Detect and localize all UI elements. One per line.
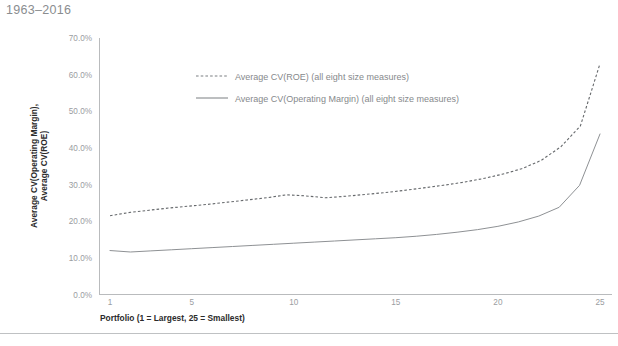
x-axis-title: Portfolio (1 = Largest, 25 = Smallest) [100, 313, 245, 323]
x-tick-label: 5 [189, 298, 194, 307]
y-axis-title-line2: Average CV(ROE) [39, 131, 49, 202]
y-axis-title-line1: Average CV(Operating Margin), [29, 104, 39, 228]
x-tick-label: 25 [595, 298, 605, 307]
series-line-average-cv-roe [110, 64, 600, 216]
chart-figure: 1963–2016 70.0%60.0%50.0%40.0%30.0%20.0%… [0, 0, 618, 346]
line-chart-plot: 70.0%60.0%50.0%40.0%30.0%20.0%10.0%0.0% … [0, 0, 618, 346]
y-tick-label: 50.0% [69, 107, 92, 116]
x-tick-label: 1 [108, 298, 113, 307]
x-tick-label: 10 [289, 298, 299, 307]
x-axis-tick-labels: 1510152025 [108, 298, 605, 307]
chart-legend: Average CV(ROE) (all eight size measures… [196, 72, 459, 104]
y-tick-label: 10.0% [69, 254, 92, 263]
y-tick-label: 40.0% [69, 144, 92, 153]
y-tick-label: 60.0% [69, 71, 92, 80]
legend-label-average-cv-operating-margin: Average CV(Operating Margin) (all eight … [235, 94, 459, 104]
x-tick-label: 15 [391, 298, 401, 307]
footer-divider [0, 333, 618, 334]
series-line-average-cv-operating-margin [110, 134, 600, 252]
y-tick-label: 20.0% [69, 217, 92, 226]
y-axis-tick-labels: 70.0%60.0%50.0%40.0%30.0%20.0%10.0%0.0% [69, 34, 92, 300]
y-axis-title: Average CV(Operating Margin), Average CV… [29, 104, 49, 228]
y-tick-label: 30.0% [69, 181, 92, 190]
y-tick-label: 0.0% [73, 291, 92, 300]
x-tick-label: 20 [493, 298, 503, 307]
legend-label-average-cv-roe: Average CV(ROE) (all eight size measures… [235, 72, 409, 82]
y-tick-label: 70.0% [69, 34, 92, 43]
